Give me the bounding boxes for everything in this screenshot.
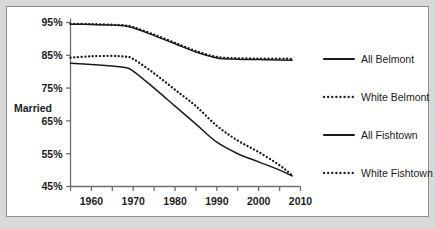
x-tick-label: 1980: [163, 195, 187, 207]
y-tick-label: 65%: [41, 115, 63, 127]
axis-lines: [71, 19, 301, 187]
married-rates-line-chart: 45%55%65%75%85%95% 196019701980199020002…: [0, 0, 435, 229]
x-tick-label: 1990: [205, 195, 229, 207]
series-line: [71, 24, 293, 59]
legend-label: All Fishtown: [361, 129, 418, 141]
legend-item: White Fishtown: [324, 167, 433, 179]
chart-figure: 45%55%65%75%85%95% 196019701980199020002…: [0, 0, 435, 229]
series-line: [71, 24, 293, 60]
y-tick-label: 55%: [41, 148, 63, 160]
x-axis-tick-labels: 196019701980199020002010: [80, 195, 313, 207]
y-tick-label: 75%: [41, 82, 63, 94]
legend-label: White Fishtown: [361, 167, 433, 179]
x-tick-label: 1970: [122, 195, 146, 207]
legend-label: All Belmont: [361, 53, 414, 65]
y-tick-label: 45%: [41, 180, 63, 192]
series-lines: [71, 24, 293, 176]
x-tick-label: 2000: [247, 195, 271, 207]
x-tick-label: 1960: [80, 195, 104, 207]
legend-label: White Belmont: [361, 91, 429, 103]
y-tick-label: 85%: [41, 49, 63, 61]
series-line: [71, 56, 293, 175]
x-tick-label: 2010: [289, 195, 313, 207]
legend-item: White Belmont: [324, 91, 429, 103]
series-line: [71, 63, 293, 176]
chart-legend: All BelmontWhite BelmontAll FishtownWhit…: [324, 53, 433, 179]
legend-item: All Belmont: [324, 53, 414, 65]
y-axis-title: Married: [14, 102, 52, 114]
legend-item: All Fishtown: [324, 129, 418, 141]
y-tick-label: 95%: [41, 16, 63, 28]
